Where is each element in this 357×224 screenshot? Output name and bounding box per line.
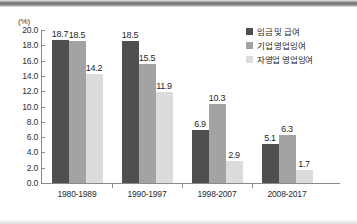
x-axis-category-label: 1998-2007 [182,189,252,199]
y-axis-tick-label: 18.0 [4,40,38,50]
bar-group: 6.910.32.9 [192,30,243,183]
y-axis-tick-label: 2.0 [4,163,38,173]
legend-label: 임금 및 급여 [257,25,300,37]
bar[interactable] [52,40,69,183]
bar-value-label: 2.9 [224,150,245,160]
bar[interactable] [209,104,226,183]
bar-value-label: 6.3 [277,124,298,134]
y-axis-tick-label: 0.0 [4,178,38,188]
legend-label: 자영업 영업잉여 [257,53,313,65]
x-axis-group-tick [182,184,183,188]
legend-swatch-icon [246,28,253,35]
x-axis-category-label: 1990-1997 [112,189,182,199]
x-axis-line [41,183,340,184]
bar-value-label: 1.7 [294,159,315,169]
bar-value-label: 15.5 [137,53,158,63]
y-axis-tick-label: 14.0 [4,71,38,81]
bar-value-label: 18.5 [67,30,88,40]
bar[interactable] [192,130,209,183]
scan-top-edge [0,0,357,7]
chart-legend: 임금 및 급여기업 영업잉여자영업 영업잉여 [246,25,350,67]
y-axis-tick-label: 10.0 [4,102,38,112]
x-axis-group-tick [112,184,113,188]
bar-value-label: 5.1 [260,133,281,143]
legend-label: 기업 영업잉여 [257,39,305,51]
y-axis-tick-label: 4.0 [4,147,38,157]
bar-value-label: 14.2 [84,63,105,73]
y-axis-tick-label: 8.0 [4,117,38,127]
legend-item[interactable]: 임금 및 급여 [246,25,350,37]
chart-page: (%) 0.02.04.06.08.010.012.014.016.018.02… [0,0,357,224]
x-axis-category-label: 1980-1989 [42,189,112,199]
legend-swatch-icon [246,56,253,63]
bar-value-label: 10.3 [207,93,228,103]
bar[interactable] [86,74,103,183]
x-axis-category-label: 2008-2017 [252,189,322,199]
bar[interactable] [226,161,243,183]
legend-item[interactable]: 자영업 영업잉여 [246,53,350,65]
y-axis-tick-label: 6.0 [4,132,38,142]
y-axis-tick-label: 12.0 [4,86,38,96]
bar-value-label: 18.5 [120,30,141,40]
bar[interactable] [296,170,313,183]
bar-group: 18.515.511.9 [122,30,173,183]
x-axis-group-tick [252,184,253,188]
y-axis-tick-label: 16.0 [4,56,38,66]
bar-value-label: 11.9 [154,81,175,91]
bar-value-label: 6.9 [190,119,211,129]
bar[interactable] [156,92,173,183]
bar[interactable] [262,144,279,183]
bar-group: 18.718.514.2 [52,30,103,183]
scan-bottom-edge [0,219,357,224]
legend-swatch-icon [246,42,253,49]
legend-item[interactable]: 기업 영업잉여 [246,39,350,51]
y-axis-tick-label: 20.0 [4,25,38,35]
